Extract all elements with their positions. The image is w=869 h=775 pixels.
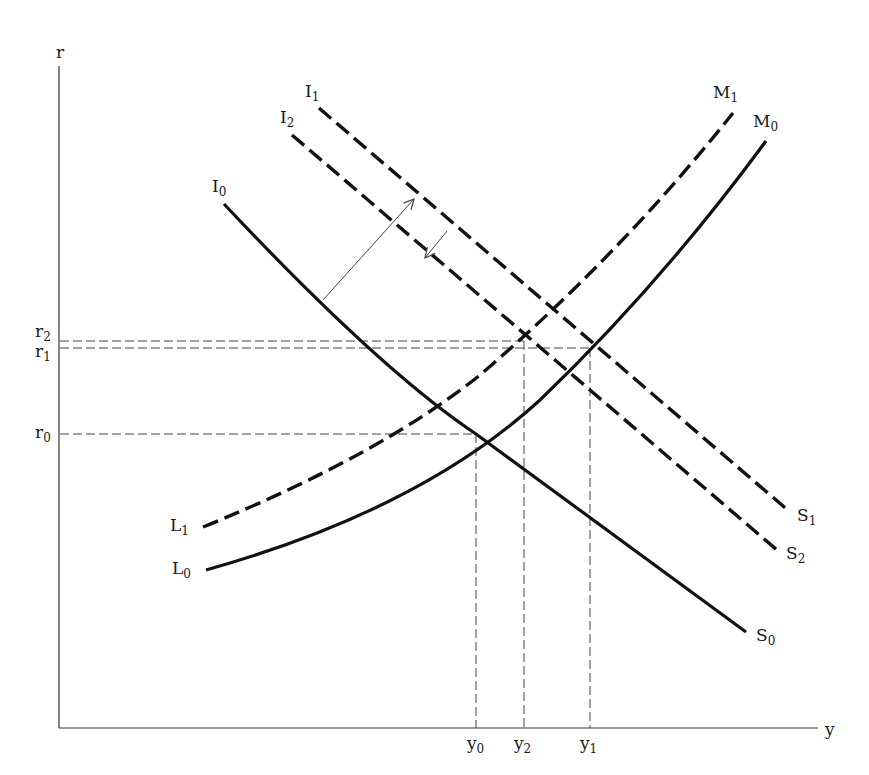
label-s0: S0 xyxy=(756,625,775,648)
label-m1: M1 xyxy=(713,82,738,105)
is-curve-i0-s0 xyxy=(224,204,746,632)
label-i0: I0 xyxy=(212,176,226,199)
lm-curve-l0-m0 xyxy=(206,141,766,570)
label-s1: S1 xyxy=(797,505,816,528)
tick-r0: r0 xyxy=(35,422,51,445)
tick-y0: y0 xyxy=(466,733,484,756)
label-l0: L0 xyxy=(172,558,191,581)
lm-curve-l1-m1 xyxy=(203,113,733,527)
label-s2: S2 xyxy=(786,543,805,566)
shift-arrow-outward xyxy=(323,199,414,300)
r-axis-label: r xyxy=(56,42,65,62)
label-i2: I2 xyxy=(280,107,294,130)
shift-arrow-inward xyxy=(425,231,447,258)
guide-lines xyxy=(60,341,590,728)
is-lm-diagram: r y I0 I1 I2 L1 L0 M1 M0 S1 S2 S0 r2 r1 … xyxy=(0,0,869,775)
label-m0: M0 xyxy=(753,111,778,134)
is-curve-i1-s1 xyxy=(319,108,790,512)
label-i1: I1 xyxy=(305,81,319,104)
label-l1: L1 xyxy=(170,515,189,538)
tick-y2: y2 xyxy=(513,733,531,756)
y-axis-label: y xyxy=(824,719,835,739)
tick-r1: r1 xyxy=(35,341,51,364)
tick-y1: y1 xyxy=(579,733,597,756)
axes: r y xyxy=(56,42,835,739)
